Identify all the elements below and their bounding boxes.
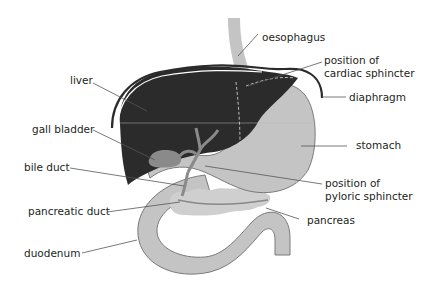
label-pancreas: pancreas xyxy=(307,214,355,226)
label-pyloric-line2: pyloric sphincter xyxy=(325,190,413,202)
label-pancreatic-duct: pancreatic duct xyxy=(28,205,110,217)
leader-duodenum xyxy=(82,240,137,253)
label-liver: liver xyxy=(70,74,94,86)
label-cardiac-line1: position of xyxy=(324,54,379,66)
label-stomach: stomach xyxy=(356,139,401,151)
label-cardiac-line2: cardiac sphincter xyxy=(324,67,415,79)
label-duodenum: duodenum xyxy=(24,247,80,259)
label-gall-bladder: gall bladder xyxy=(32,123,95,135)
label-bile-duct: bile duct xyxy=(24,161,70,173)
label-pyloric-line1: position of xyxy=(325,177,380,189)
digestive-system-diagram: oesophagus position of cardiac sphincter… xyxy=(0,0,429,295)
label-diaphragm: diaphragm xyxy=(349,91,406,103)
label-oesophagus: oesophagus xyxy=(262,31,325,43)
